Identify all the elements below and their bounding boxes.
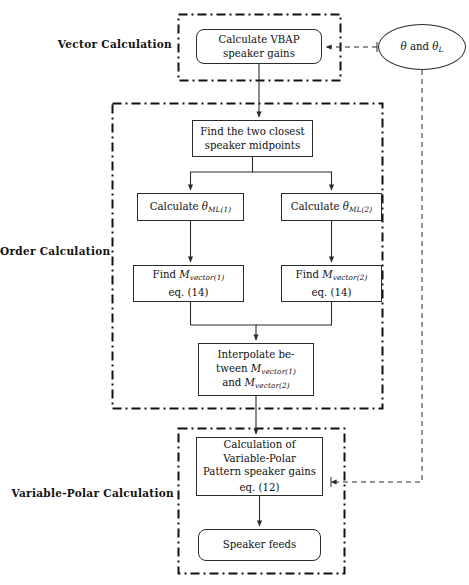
node-mvec1-equation: eq. (14) bbox=[169, 286, 209, 299]
node-varpolar-line2: Variable-Polar bbox=[223, 452, 296, 465]
edge-mvec2-to-interpolate bbox=[256, 302, 332, 325]
node-find-m-vector2[interactable]: Find Mvector(2) eq. (14) bbox=[281, 265, 382, 302]
node-feeds-line1: Speaker feeds bbox=[223, 538, 297, 551]
node-theta-input-text: θ and θL bbox=[401, 41, 444, 54]
node-varpolar-line1: Calculation of bbox=[224, 438, 296, 451]
node-mvec1-text: Find Mvector(1) bbox=[153, 268, 225, 283]
node-calculate-theta-ml1[interactable]: Calculate θML(1) bbox=[137, 193, 244, 221]
node-midpoints-line2: speaker midpoints bbox=[205, 139, 300, 152]
node-interpolate-line3: and Mvector(2) bbox=[222, 376, 290, 391]
conjunction: and bbox=[407, 41, 433, 52]
theta-l-subscript: L bbox=[438, 44, 443, 53]
node-midpoints-line1: Find the two closest bbox=[200, 125, 304, 138]
node-interpolate-line1: Interpolate be- bbox=[218, 348, 295, 361]
node-theta2-text: Calculate θML(2) bbox=[291, 200, 373, 215]
interpolate-subscript-1: vector(1) bbox=[261, 367, 296, 376]
node-varpolar-line3: Pattern speaker gains bbox=[203, 465, 316, 478]
node-vbap-line1: Calculate VBAP bbox=[218, 33, 299, 46]
theta2-subscript: ML(2) bbox=[349, 205, 372, 214]
node-mvec2-text: Find Mvector(2) bbox=[296, 268, 368, 283]
node-mvec2-equation: eq. (14) bbox=[312, 286, 352, 299]
node-theta-and-theta-l-input[interactable]: θ and θL bbox=[378, 24, 466, 70]
m-symbol: M bbox=[179, 269, 189, 280]
m-symbol: M bbox=[322, 269, 332, 280]
node-find-two-closest-speaker-midpoints[interactable]: Find the two closest speaker midpoints bbox=[192, 120, 313, 157]
group-label-variable-polar-calculation: Variable-Polar Calculation bbox=[0, 487, 174, 499]
node-interpolate-line2: tween Mvector(1) bbox=[216, 362, 296, 377]
node-vbap-line2: speaker gains bbox=[223, 47, 295, 60]
node-interpolate-between-m-vectors[interactable]: Interpolate be- tween Mvector(1) and Mve… bbox=[198, 343, 314, 396]
group-label-order-calculation: Order Calculation bbox=[0, 245, 106, 257]
group-label-vector-calculation: Vector Calculation bbox=[0, 38, 172, 50]
m-symbol: M bbox=[251, 363, 261, 374]
mvec2-subscript: vector(2) bbox=[333, 273, 368, 282]
node-calculate-vbap-speaker-gains[interactable]: Calculate VBAP speaker gains bbox=[196, 29, 322, 64]
m-symbol: M bbox=[245, 377, 255, 388]
edge-mvec1-to-interpolate bbox=[191, 302, 257, 340]
node-varpolar-equation: eq. (12) bbox=[240, 481, 280, 494]
theta1-subscript: ML(1) bbox=[208, 205, 231, 214]
node-calculate-theta-ml2[interactable]: Calculate θML(2) bbox=[281, 193, 382, 221]
node-calculation-of-variable-polar-pattern-speaker-gains[interactable]: Calculation of Variable-Polar Pattern sp… bbox=[196, 437, 323, 496]
edge-midpoints-split-right bbox=[253, 172, 332, 190]
edge-midpoints-split bbox=[191, 157, 253, 190]
flowchart-canvas: Vector Calculation Order Calculation Var… bbox=[0, 0, 469, 585]
mvec1-subscript: vector(1) bbox=[190, 273, 225, 282]
node-speaker-feeds[interactable]: Speaker feeds bbox=[198, 529, 321, 561]
interpolate-subscript-2: vector(2) bbox=[255, 381, 290, 390]
node-find-m-vector1[interactable]: Find Mvector(1) eq. (14) bbox=[133, 265, 244, 302]
node-theta1-text: Calculate θML(1) bbox=[150, 200, 232, 215]
